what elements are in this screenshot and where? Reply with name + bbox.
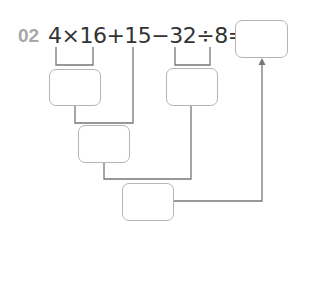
final-difference-box[interactable] xyxy=(122,183,174,221)
product-4x16-box[interactable] xyxy=(49,69,101,106)
answer-box[interactable] xyxy=(235,20,288,58)
sum-plus-15-box[interactable] xyxy=(78,125,130,163)
arrow-head-icon xyxy=(259,58,266,65)
bracket-32div8 xyxy=(175,47,210,65)
quotient-32div8-box[interactable] xyxy=(166,68,218,106)
bracket-4x16 xyxy=(56,47,93,65)
